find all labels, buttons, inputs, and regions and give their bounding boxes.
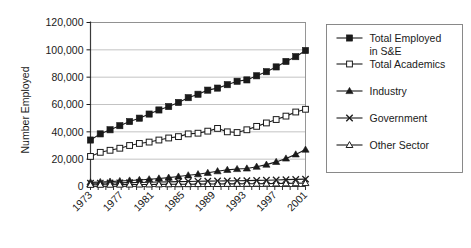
marker-open-square	[146, 139, 152, 145]
y-tick-label: 120,000	[46, 16, 84, 28]
marker-open-square	[185, 131, 191, 137]
marker-filled-square	[185, 95, 191, 101]
marker-open-square	[117, 145, 123, 151]
marker-open-square	[224, 129, 230, 135]
y-tick-label: 60,000	[51, 98, 83, 110]
y-axis-title: Number Employed	[19, 66, 31, 153]
marker-open-square	[136, 141, 142, 147]
y-axis-title-text: Number Employed	[19, 66, 31, 153]
marker-open-square	[244, 127, 250, 133]
marker-filled-square	[244, 77, 250, 83]
marker-open-square	[293, 109, 299, 115]
marker-filled-square	[136, 115, 142, 121]
marker-open-square	[234, 130, 240, 136]
marker-filled-square	[346, 35, 352, 41]
marker-open-square	[107, 147, 113, 153]
marker-filled-square	[87, 137, 93, 143]
line-chart-canvas: Number Employed 020,00040,00060,00080,00…	[0, 0, 471, 248]
marker-filled-square	[293, 54, 299, 60]
marker-open-square	[97, 149, 103, 155]
marker-open-square	[264, 120, 270, 126]
marker-open-square	[166, 135, 172, 141]
marker-filled-square	[97, 131, 103, 137]
marker-filled-square	[234, 78, 240, 84]
y-tick-label: 100,000	[46, 44, 84, 56]
y-tick-label: 80,000	[51, 71, 83, 83]
marker-filled-square	[263, 69, 269, 75]
marker-open-square	[303, 106, 309, 112]
marker-open-square	[156, 137, 162, 143]
marker-filled-square	[224, 82, 230, 88]
marker-filled-square	[302, 47, 308, 53]
marker-filled-square	[156, 107, 162, 113]
marker-open-square	[254, 123, 260, 129]
marker-filled-square	[283, 58, 289, 64]
marker-filled-square	[166, 103, 172, 109]
legend-label: Other Sector	[370, 139, 430, 151]
legend-label: Total Academics	[370, 58, 446, 70]
marker-open-square	[283, 113, 289, 119]
y-tick-label: 20,000	[51, 153, 83, 165]
marker-open-square	[273, 117, 279, 123]
marker-open-square	[88, 154, 94, 160]
legend-label-line2: in S&E	[370, 45, 402, 57]
legend-label: Total Employed	[370, 32, 442, 44]
marker-open-square	[195, 130, 201, 136]
marker-filled-square	[146, 111, 152, 117]
marker-filled-square	[175, 99, 181, 105]
marker-filled-square	[214, 85, 220, 91]
legend-label: Government	[370, 112, 428, 124]
chart-legend: Total Employedin S&ETotal AcademicsIndus…	[327, 25, 463, 173]
marker-filled-square	[117, 123, 123, 129]
chart-figure: Number Employed 020,00040,00060,00080,00…	[0, 0, 471, 248]
marker-filled-square	[254, 73, 260, 79]
marker-open-square	[176, 134, 182, 140]
marker-open-square	[347, 61, 353, 67]
marker-filled-square	[195, 91, 201, 97]
y-tick-label: 40,000	[51, 126, 83, 138]
marker-open-square	[215, 126, 221, 132]
marker-open-square	[127, 143, 133, 149]
marker-filled-square	[107, 127, 113, 133]
marker-open-square	[205, 128, 211, 134]
marker-filled-square	[273, 64, 279, 70]
marker-filled-square	[126, 118, 132, 124]
marker-filled-square	[205, 87, 211, 93]
legend-label: Industry	[370, 85, 408, 97]
